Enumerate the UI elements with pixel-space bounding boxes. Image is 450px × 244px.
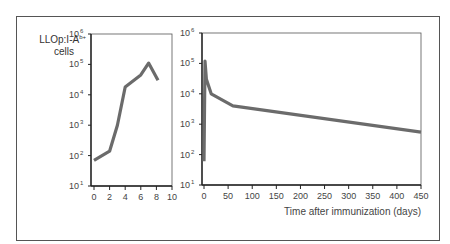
x-axis-label: Time after immunization (days): [284, 206, 421, 217]
y-axis-label: LLOp:I-Ab+: [39, 34, 86, 45]
y-tick-exponent: 2: [191, 149, 195, 155]
y-tick-label: 10: [69, 181, 79, 191]
y-tick-label: 10: [69, 59, 79, 69]
y-axis-label-line2: cells: [54, 46, 74, 57]
x-tick-label: 450: [413, 191, 428, 201]
y-tick-label: 10: [180, 180, 190, 190]
y-tick-label: 10: [69, 120, 79, 130]
left-plot-area: [91, 34, 172, 186]
x-tick-label: 8: [154, 192, 159, 202]
x-tick-label: 150: [269, 191, 284, 201]
y-tick-label: 10: [180, 28, 190, 38]
x-tick-label: 300: [341, 191, 356, 201]
right-plot-area: [202, 33, 421, 185]
y-tick-label: 10: [180, 58, 190, 68]
x-tick-label: 0: [201, 191, 206, 201]
x-tick-label: 400: [389, 191, 404, 201]
y-tick-exponent: 4: [191, 88, 195, 94]
y-tick-label: 10: [69, 90, 79, 100]
x-tick-label: 6: [138, 192, 143, 202]
y-tick-exponent: 4: [80, 89, 84, 95]
chart-svg: 101102103104105106 0246810 LLOp:I-Ab+ ce…: [0, 0, 450, 244]
left-panel: 101102103104105106 0246810 LLOp:I-Ab+ ce…: [39, 28, 177, 202]
x-tick-label: 250: [317, 191, 332, 201]
right-panel: 101102103104105106 050100150200250300350…: [180, 27, 429, 217]
x-tick-label: 0: [91, 192, 96, 202]
x-tick-label: 4: [123, 192, 128, 202]
right-y-ticks: 101102103104105106: [180, 27, 202, 190]
x-tick-label: 50: [223, 191, 233, 201]
left-x-ticks: 0246810: [91, 186, 177, 202]
right-x-ticks: 050100150200250300350400450: [201, 185, 428, 201]
right-data-line: [204, 61, 421, 161]
y-tick-exponent: 5: [80, 58, 84, 64]
x-tick-label: 2: [107, 192, 112, 202]
x-tick-label: 100: [245, 191, 260, 201]
y-tick-exponent: 1: [191, 179, 195, 185]
x-tick-label: 350: [365, 191, 380, 201]
x-tick-label: 10: [167, 192, 177, 202]
y-tick-exponent: 5: [191, 57, 195, 63]
y-tick-exponent: 3: [80, 119, 84, 125]
y-tick-exponent: 2: [80, 150, 84, 156]
y-tick-exponent: 3: [191, 118, 195, 124]
y-tick-label: 10: [69, 151, 79, 161]
left-data-line: [94, 63, 158, 160]
y-tick-label: 10: [180, 150, 190, 160]
y-tick-exponent: 1: [80, 180, 84, 186]
x-tick-label: 200: [293, 191, 308, 201]
y-tick-exponent: 6: [191, 27, 195, 33]
y-tick-label: 10: [180, 89, 190, 99]
y-tick-label: 10: [180, 119, 190, 129]
